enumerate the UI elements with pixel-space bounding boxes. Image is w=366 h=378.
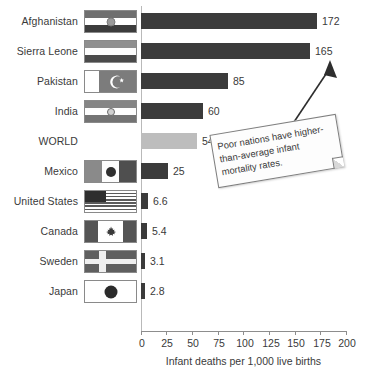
flag-canada bbox=[84, 220, 137, 243]
bar-sweden bbox=[141, 253, 145, 269]
category-label-canada: Canada bbox=[0, 216, 78, 246]
value-label-afghanistan: 172 bbox=[322, 6, 340, 36]
mexico-eagle-emblem-icon bbox=[106, 167, 116, 177]
category-label-japan: Japan bbox=[0, 276, 78, 306]
x-axis-tick bbox=[218, 331, 219, 335]
x-axis-tick-label: 200 bbox=[338, 337, 356, 349]
chart-row: Japan 2.8 bbox=[0, 276, 366, 306]
x-axis-tick-label: 150 bbox=[287, 337, 305, 349]
x-axis-tick bbox=[346, 331, 347, 335]
x-axis-tick-label: 100 bbox=[236, 337, 254, 349]
bar-japan bbox=[141, 283, 145, 299]
value-label-mexico: 25 bbox=[173, 156, 185, 186]
category-label-sierra-leone: Sierra Leone bbox=[0, 36, 78, 66]
x-axis-tick bbox=[141, 331, 142, 335]
x-axis-tick bbox=[269, 331, 270, 335]
infant-mortality-bar-chart: Afghanistan 172 Sierra Leone 165 Pakista… bbox=[0, 0, 366, 378]
x-axis-title: Infant deaths per 1,000 live births bbox=[141, 355, 346, 367]
india-ashoka-chakra-icon bbox=[107, 108, 115, 116]
x-axis-tick bbox=[166, 331, 167, 335]
category-label-world: WORLD bbox=[0, 126, 78, 156]
x-axis-tick-label: 0 bbox=[139, 337, 145, 349]
us-canton-icon bbox=[85, 191, 106, 202]
category-label-sweden: Sweden bbox=[0, 246, 78, 276]
sweden-cross-vertical-icon bbox=[99, 251, 106, 272]
flag-afghanistan bbox=[84, 10, 137, 33]
value-label-united-states: 6.6 bbox=[153, 186, 168, 216]
x-axis-tick-label: 25 bbox=[161, 337, 173, 349]
flag-sierra-leone bbox=[84, 40, 137, 63]
note-folded-corner-icon bbox=[332, 156, 345, 169]
value-label-japan: 2.8 bbox=[150, 276, 165, 306]
flag-pakistan bbox=[84, 70, 137, 93]
chart-row: Afghanistan 172 bbox=[0, 6, 366, 36]
value-label-canada: 5.4 bbox=[152, 216, 167, 246]
pakistan-crescent-star-icon bbox=[108, 73, 125, 90]
x-axis-tick-label: 50 bbox=[187, 337, 199, 349]
flag-sweden bbox=[84, 250, 137, 273]
afghanistan-emblem-icon bbox=[106, 17, 115, 26]
x-axis-tick bbox=[320, 331, 321, 335]
bar-mexico bbox=[141, 163, 168, 179]
x-axis-tick bbox=[295, 331, 296, 335]
x-axis-tick-label: 75 bbox=[213, 337, 225, 349]
bar-united-states bbox=[141, 193, 148, 209]
flag-united-states bbox=[84, 190, 137, 213]
category-label-mexico: Mexico bbox=[0, 156, 78, 186]
bar-world bbox=[141, 133, 197, 149]
x-axis-tick-label: 175 bbox=[313, 337, 331, 349]
value-label-india: 60 bbox=[208, 96, 220, 126]
x-axis-tick bbox=[243, 331, 244, 335]
bar-canada bbox=[141, 223, 147, 239]
flag-japan bbox=[84, 280, 137, 303]
sweden-cross-horizontal-icon bbox=[85, 259, 136, 264]
category-label-india: India bbox=[0, 96, 78, 126]
chart-row: United States 6.6 bbox=[0, 186, 366, 216]
value-label-sweden: 3.1 bbox=[150, 246, 165, 276]
category-label-united-states: United States bbox=[0, 186, 78, 216]
category-label-afghanistan: Afghanistan bbox=[0, 6, 78, 36]
flag-mexico bbox=[84, 160, 137, 183]
bar-pakistan bbox=[141, 73, 228, 89]
bar-afghanistan bbox=[141, 13, 317, 29]
bar-india bbox=[141, 103, 203, 119]
chart-row: Canada 5.4 bbox=[0, 216, 366, 246]
flag-india bbox=[84, 100, 137, 123]
chart-row: Sweden 3.1 bbox=[0, 246, 366, 276]
canada-maple-leaf-icon bbox=[104, 225, 117, 238]
category-label-pakistan: Pakistan bbox=[0, 66, 78, 96]
x-axis-tick-label: 125 bbox=[262, 337, 280, 349]
x-axis-tick bbox=[192, 331, 193, 335]
value-label-pakistan: 85 bbox=[233, 66, 245, 96]
japan-sun-disc-icon bbox=[104, 285, 117, 298]
